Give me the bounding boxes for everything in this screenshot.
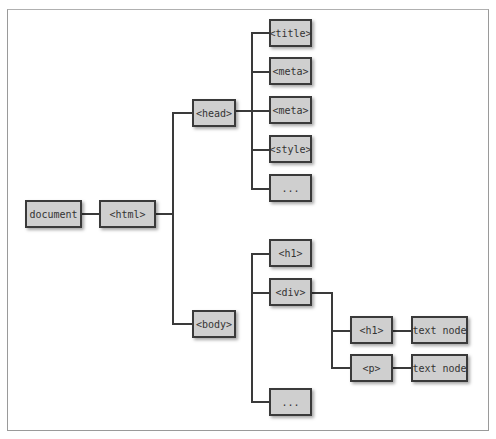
- node-html: <html>: [99, 200, 156, 228]
- node-body-more: ...: [269, 388, 312, 416]
- node-head-more: ...: [269, 174, 312, 202]
- connector-to-head-more: [251, 188, 269, 190]
- connector-html-vertical: [172, 112, 174, 325]
- connector-to-h1: [251, 253, 269, 255]
- connector-to-div: [251, 292, 269, 294]
- node-div: <div>: [269, 278, 312, 306]
- node-h1: <h1>: [269, 239, 312, 267]
- connector-to-div-p: [331, 367, 350, 369]
- node-div-p: <p>: [350, 354, 393, 382]
- node-meta-2: <meta>: [269, 96, 312, 124]
- connector-to-meta1: [251, 71, 269, 73]
- node-div-h1: <h1>: [350, 316, 393, 344]
- node-head: <head>: [192, 99, 236, 127]
- connector-to-body-more: [251, 401, 269, 403]
- connector-h1-text: [393, 330, 411, 332]
- node-meta-1: <meta>: [269, 57, 312, 85]
- connector-to-div-h1: [331, 330, 350, 332]
- connector-document-html: [82, 213, 99, 215]
- connector-p-text: [393, 367, 411, 369]
- connector-div-trunk: [312, 292, 333, 294]
- node-title: <title>: [269, 19, 312, 47]
- node-document: document: [25, 200, 82, 228]
- connector-to-head: [172, 112, 192, 114]
- connector-to-title: [251, 32, 269, 34]
- node-body: <body>: [192, 310, 236, 338]
- connector-to-meta2: [251, 110, 269, 112]
- connector-to-body: [172, 323, 192, 325]
- node-style: <style>: [269, 135, 312, 163]
- connector-to-style: [251, 149, 269, 151]
- connector-body-vertical: [251, 253, 253, 403]
- node-p-text: text node: [411, 354, 468, 382]
- node-h1-text: text node: [411, 316, 468, 344]
